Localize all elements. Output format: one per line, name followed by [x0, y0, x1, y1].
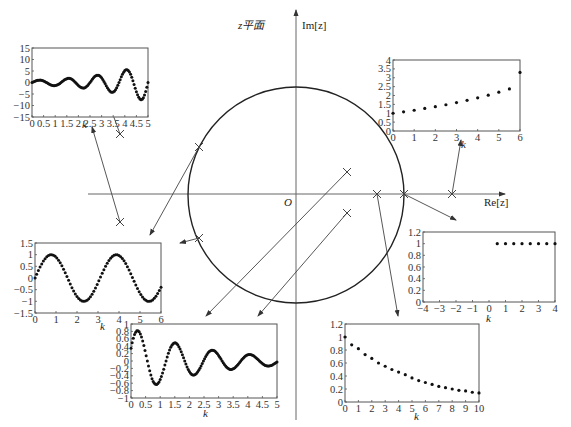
x-tick-label: 5 — [496, 132, 501, 143]
x-tick-label: 4.5 — [256, 399, 269, 410]
x-tick-label: 4 — [116, 314, 122, 325]
x-tick-label: 4 — [552, 303, 558, 314]
real-axis-label: Re[z] — [484, 196, 508, 208]
y-tick-label: 0 — [338, 397, 343, 408]
y-tick-label: 0.8 — [330, 345, 343, 356]
x-tick-label: 5 — [274, 399, 279, 410]
y-tick-label: 0 — [25, 77, 30, 88]
origin-label: O — [284, 196, 292, 208]
data-point — [145, 354, 148, 357]
data-point — [102, 268, 105, 271]
x-tick-label: 10 — [474, 403, 485, 414]
x-tick-label: 1.5 — [60, 118, 73, 129]
y-tick-label: −15 — [14, 112, 30, 123]
y-tick-label: 1 — [338, 332, 343, 343]
data-point — [512, 242, 515, 245]
x-tick-label: 3 — [383, 403, 388, 414]
data-point — [147, 365, 150, 368]
y-tick-label: 0 — [28, 273, 33, 284]
chart-step: −4−3−2−1012341.210.80.60.40.20k — [408, 227, 559, 325]
data-point — [136, 287, 139, 290]
x-tick-label: 3.5 — [107, 118, 120, 129]
data-point — [402, 110, 405, 113]
data-point — [132, 337, 135, 340]
data-point — [57, 259, 60, 262]
data-point — [397, 371, 400, 374]
x-tick-label: 4 — [475, 132, 481, 143]
data-point — [129, 272, 132, 275]
y-tick-label: 0.6 — [408, 262, 421, 273]
data-point — [99, 276, 102, 279]
data-point — [167, 352, 170, 355]
data-point — [159, 378, 162, 381]
x-tick-label: 4 — [122, 118, 128, 129]
data-point — [181, 353, 184, 356]
x-tick-label: 1 — [53, 314, 58, 325]
y-tick-label: 1 — [416, 238, 421, 249]
x-tick-label: 7 — [436, 403, 441, 414]
data-point — [35, 273, 38, 276]
data-point — [455, 101, 458, 104]
data-point — [457, 389, 460, 392]
x-tick-label: 1 — [356, 403, 361, 414]
data-point — [139, 332, 142, 335]
data-point — [91, 293, 94, 296]
x-tick-label: 6 — [423, 403, 428, 414]
data-point — [92, 290, 95, 293]
data-point — [370, 357, 373, 360]
data-point — [182, 356, 185, 359]
data-point — [97, 279, 100, 282]
data-point — [158, 289, 161, 292]
data-point — [126, 265, 129, 268]
data-point — [545, 242, 548, 245]
data-point — [34, 277, 37, 280]
data-point — [553, 242, 556, 245]
data-point — [94, 287, 97, 290]
x-tick-label: −3 — [434, 303, 445, 314]
data-point — [135, 90, 138, 93]
y-tick-label: 1 — [28, 249, 33, 260]
y-tick-label: −10 — [14, 100, 30, 111]
data-point — [131, 276, 134, 279]
data-point — [139, 293, 142, 296]
arrow-real-outside — [452, 140, 461, 194]
y-tick-label: 0 — [386, 126, 391, 137]
y-tick-label: 1.5 — [20, 238, 33, 249]
data-point — [144, 90, 147, 93]
data-point — [67, 279, 70, 282]
data-point — [128, 269, 131, 272]
data-point — [59, 261, 62, 264]
x-tick-label: 1 — [158, 399, 163, 410]
y-tick-label: 0.4 — [330, 371, 344, 382]
data-point — [162, 368, 165, 371]
data-point — [180, 350, 183, 353]
data-point — [424, 381, 427, 384]
pole-markers — [116, 130, 456, 242]
data-point — [404, 373, 407, 376]
data-point — [147, 81, 150, 84]
x-axis-label: k — [414, 410, 420, 422]
y-tick-label: 0.2 — [408, 285, 421, 296]
data-point — [364, 353, 367, 356]
data-point — [144, 349, 147, 352]
x-tick-label: 0 — [342, 403, 347, 414]
plot-frame — [393, 60, 520, 131]
data-point — [444, 386, 447, 389]
data-point — [74, 292, 77, 295]
data-point — [70, 286, 73, 289]
x-tick-label: 8 — [450, 403, 455, 414]
y-tick-label: 0.2 — [330, 384, 343, 395]
y-tick-label: 1.2 — [330, 319, 343, 330]
data-point — [145, 86, 148, 89]
data-point — [451, 387, 454, 390]
data-point — [537, 242, 540, 245]
data-point — [60, 264, 63, 267]
data-point — [413, 109, 416, 112]
x-tick-label: 1.5 — [168, 399, 181, 410]
x-tick-label: 2 — [187, 399, 192, 410]
data-point — [357, 347, 360, 350]
data-point — [120, 75, 123, 78]
data-point — [89, 295, 92, 298]
z-plane-label: z平面 — [237, 19, 266, 31]
x-tick-label: 0.5 — [139, 399, 152, 410]
